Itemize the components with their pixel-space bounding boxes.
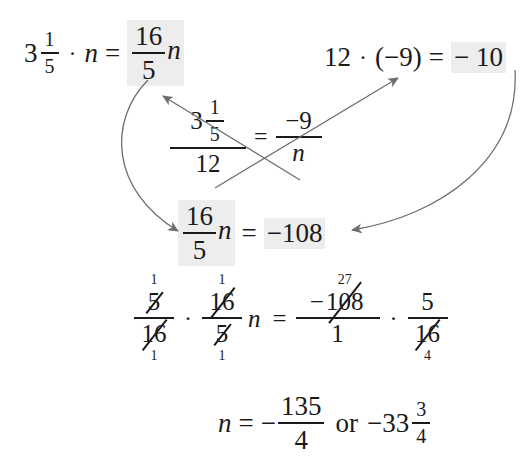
mixed-fraction-part: 3 4 [412, 399, 430, 447]
fraction-bar [202, 317, 242, 319]
equals-sign: = [273, 306, 287, 331]
fraction-bar [276, 136, 322, 138]
negative-sign: − [384, 44, 399, 71]
cancel-result-below: 4 [424, 349, 431, 363]
multiplication-dot: · [390, 306, 398, 330]
mixed-number-33-and-3-4: 33 3 4 [382, 399, 432, 447]
fraction-numerator: − 27 108 [307, 289, 369, 315]
factor-12: 12 [324, 44, 351, 71]
fraction-5-over-16-cancelled-right: 5 16 4 [408, 289, 448, 347]
fraction-bar [278, 422, 325, 424]
fraction-bar [408, 317, 448, 319]
fraction-denominator: 1 [328, 321, 347, 347]
fraction-16-over-5-cancelled: 1 16 5 1 [202, 289, 242, 347]
equals-sign: = [105, 40, 120, 67]
equals-sign: = [239, 410, 254, 437]
mixed-fraction-numerator: 1 [42, 29, 58, 50]
fraction-numerator: 1 5 [143, 289, 166, 315]
cancel-group-108: 27 108 [324, 289, 366, 315]
fraction-numerator: 16 [132, 22, 165, 50]
fraction-135-over-4: 135 4 [278, 392, 325, 454]
negative-sign: − [261, 410, 276, 437]
highlight-negative-108-clipped: − 10 [451, 42, 506, 73]
cancel-group-5: 1 5 [146, 289, 163, 315]
fraction-5-over-16-cancelled: 1 5 16 1 [134, 289, 174, 347]
cancel-group-16: 16 4 [413, 321, 442, 347]
struck-number-5: 5 [146, 289, 163, 315]
factor-9: 9 [399, 44, 413, 71]
fraction-bar [412, 422, 430, 424]
mixed-whole-part: 3 [24, 40, 38, 67]
mixed-fraction-numerator: 1 [207, 97, 223, 118]
equals-sign: = [429, 44, 444, 71]
struck-number-16: 16 [140, 321, 169, 347]
cancel-group-16: 1 16 [208, 289, 237, 315]
cancel-result-above: 27 [338, 273, 352, 287]
mixed-fraction-numerator: 3 [413, 399, 429, 420]
cancel-group-5: 5 1 [214, 321, 231, 347]
fraction-numerator: 5 [418, 289, 437, 315]
negative-sign: − [367, 410, 382, 437]
cancel-result-above: 1 [151, 273, 158, 287]
fraction-16-over-5: 16 5 [183, 202, 216, 264]
equation-line-4-cancellation: 1 5 16 1 · 1 16 [132, 288, 450, 348]
variable-n: n [167, 35, 181, 65]
multiplication-dot: · [359, 45, 367, 69]
fraction-numerator: 16 [183, 202, 216, 230]
fraction-denominator: 5 [139, 56, 159, 84]
fraction-denominator: 16 4 [410, 321, 445, 347]
struck-number-5: 5 [214, 321, 231, 347]
struck-number-16: 16 [413, 321, 442, 347]
fraction-denominator: 5 1 [211, 321, 234, 347]
proportion-right-fraction: −9 n [276, 108, 322, 166]
fraction-bar [132, 52, 165, 54]
fraction-negative-108-over-1: − 27 108 1 [296, 289, 380, 347]
proportion-left-fraction: 3 1 5 12 [170, 97, 246, 177]
fraction-denominator: 4 [291, 426, 311, 454]
fraction-bar [206, 120, 224, 122]
mixed-number-3-and-1-5: 3 1 5 [24, 29, 61, 77]
multiplication-dot: · [184, 306, 192, 330]
fraction-numerator: 1 16 [205, 289, 240, 315]
variable-n: n [218, 410, 232, 437]
multiplication-dot: · [69, 41, 77, 65]
curve-arrow-right-down [352, 70, 515, 230]
mixed-fraction-part: 1 5 [206, 97, 224, 145]
proportion-left-numerator: 3 1 5 [187, 97, 229, 145]
mixed-fraction-denominator: 5 [42, 56, 58, 77]
fraction-bar [296, 317, 380, 319]
or-word: or [335, 410, 358, 437]
mixed-fraction-denominator: 4 [413, 426, 429, 447]
mixed-number-3-and-1-5: 3 1 5 [190, 97, 226, 145]
open-parenthesis: ( [375, 44, 384, 71]
cancel-result-below: 1 [151, 349, 158, 363]
fraction-bar [170, 147, 246, 149]
mixed-fraction-denominator: 5 [207, 124, 223, 145]
equals-sign: = [242, 220, 257, 247]
equation-line-1: 3 1 5 · n = 16 5 n [24, 30, 184, 76]
cancel-group-16: 16 1 [140, 321, 169, 347]
fraction-denominator: 5 [190, 236, 210, 264]
highlight-16-over-5: 16 5 n [127, 20, 184, 86]
fraction-denominator: 16 1 [137, 321, 172, 347]
highlight-negative-108: −108 [264, 218, 326, 249]
proportion-right-denominator: n [289, 140, 308, 166]
variable-n: n [85, 40, 99, 67]
math-worked-example: 3 1 5 · n = 16 5 n 12 · ( − 9 ) = − 10 [0, 0, 528, 475]
struck-number-108: 108 [324, 289, 366, 315]
cancel-result-above: 1 [219, 273, 226, 287]
equation-line-right: 12 · ( − 9 ) = − 10 [324, 40, 506, 74]
fraction-16-over-5: 16 5 [132, 22, 165, 84]
variable-n: n [248, 306, 261, 331]
proportion-block: 3 1 5 12 = −9 n [168, 97, 324, 177]
fraction-bar [134, 317, 174, 319]
fraction-bar [41, 52, 59, 54]
fraction-numerator: 135 [278, 392, 325, 420]
equation-line-5-answer: n = − 135 4 or − 33 3 4 [218, 398, 432, 448]
equation-line-3: 16 5 n = −108 [178, 210, 325, 256]
fraction-bar [183, 232, 216, 234]
equals-sign: = [254, 123, 268, 150]
negative-sign: − [310, 288, 324, 315]
close-parenthesis: ) [413, 44, 422, 71]
mixed-fraction-part: 1 5 [41, 29, 59, 77]
